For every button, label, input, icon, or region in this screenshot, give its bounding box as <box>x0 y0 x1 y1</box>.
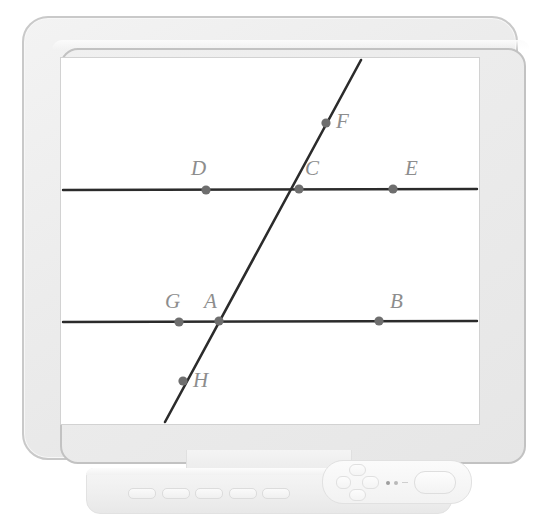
point-marker-a <box>214 316 223 325</box>
menu-button-1[interactable] <box>128 488 156 499</box>
dpad-up-button[interactable] <box>349 464 366 476</box>
point-label-f: F <box>336 111 349 132</box>
point-label-e: E <box>405 158 418 179</box>
point-marker-f <box>321 118 330 127</box>
dpad-cluster <box>336 464 376 500</box>
led-indicator-1 <box>386 481 390 485</box>
point-label-h: H <box>193 370 208 391</box>
menu-button-3[interactable] <box>195 488 223 499</box>
point-label-a: A <box>204 291 217 312</box>
point-marker-e <box>388 184 397 193</box>
dpad-right-button[interactable] <box>362 476 379 489</box>
menu-button-4[interactable] <box>229 488 257 499</box>
monitor-screen[interactable]: DCEFGABH <box>60 57 480 425</box>
point-marker-g <box>174 317 183 326</box>
menu-button-2[interactable] <box>162 488 190 499</box>
led-indicator-2 <box>394 481 398 485</box>
lower-parallel-line <box>63 321 477 322</box>
menu-button-5[interactable] <box>262 488 290 499</box>
point-marker-c <box>294 184 303 193</box>
point-label-b: B <box>390 291 403 312</box>
power-button[interactable] <box>414 471 456 494</box>
point-marker-h <box>178 376 187 385</box>
point-label-c: C <box>305 158 319 179</box>
lines-group <box>63 60 477 422</box>
point-label-g: G <box>165 291 180 312</box>
geometry-diagram <box>61 58 479 424</box>
point-marker-b <box>374 316 383 325</box>
screenshot-root: DCEFGABH <box>0 0 536 527</box>
point-marker-d <box>201 185 210 194</box>
osd-button-row <box>128 487 290 499</box>
dpad-left-button[interactable] <box>336 476 351 489</box>
panel-divider <box>402 482 408 483</box>
upper-parallel-line <box>63 189 477 190</box>
point-label-d: D <box>191 158 206 179</box>
dpad-down-button[interactable] <box>349 489 366 501</box>
